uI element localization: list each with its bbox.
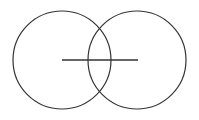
diagram-canvas [0,0,199,120]
